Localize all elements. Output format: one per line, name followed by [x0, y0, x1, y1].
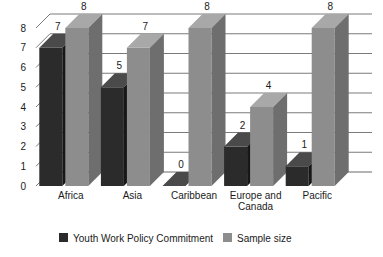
bar-value-label: 5	[117, 60, 123, 71]
bar-front-face	[189, 28, 212, 186]
bar-side-face	[335, 14, 349, 186]
y-axis-tick-label: 4	[20, 102, 26, 113]
bar-side-face	[150, 34, 164, 186]
axis-depth-connector	[36, 14, 50, 28]
y-axis-tick-label: 2	[20, 141, 26, 152]
bar-side-face	[88, 14, 102, 186]
category-label: Pacific	[302, 190, 331, 201]
bar-value-label: 8	[204, 1, 210, 12]
legend-swatch	[59, 233, 68, 242]
legend-label: Youth Work Policy Commitment	[73, 233, 213, 244]
bar-side-face	[212, 14, 226, 186]
bar-front-face	[312, 28, 335, 186]
y-axis-tick-label: 6	[20, 62, 26, 73]
bar-sample	[65, 14, 102, 186]
bar-value-label: 1	[301, 139, 307, 150]
category-label: Caribbean	[171, 190, 217, 201]
y-axis-tick-label: 1	[20, 161, 26, 172]
category-label: Asia	[123, 190, 143, 201]
bars: 7857082418	[39, 1, 348, 186]
bar-sample	[312, 14, 349, 186]
legend: Youth Work Policy CommitmentSample size	[59, 233, 292, 244]
chart-container: 0123456787857082418AfricaAsiaCaribbeanEu…	[0, 0, 383, 257]
bar-front-face	[250, 107, 273, 186]
bar-value-label: 8	[81, 1, 87, 12]
bar-value-label: 7	[143, 21, 149, 32]
y-axis: 012345678	[20, 23, 26, 192]
legend-swatch	[223, 233, 232, 242]
bar-value-label: 8	[327, 1, 333, 12]
bar-value-label: 2	[240, 120, 246, 131]
bar-sample	[127, 34, 164, 186]
bar-chart: 0123456787857082418AfricaAsiaCaribbeanEu…	[0, 0, 383, 257]
category-label: Africa	[58, 190, 84, 201]
bar-front-face	[127, 48, 150, 186]
category-label-line2: Canada	[238, 201, 273, 212]
y-axis-tick-label: 7	[20, 42, 26, 53]
bar-front-face	[65, 28, 88, 186]
y-axis-tick-label: 3	[20, 121, 26, 132]
y-axis-tick-label: 0	[20, 181, 26, 192]
bar-sample	[189, 14, 226, 186]
bar-side-face	[273, 93, 287, 186]
bar-front-face	[286, 166, 309, 186]
bar-front-face	[39, 48, 62, 186]
x-axis-category-labels: AfricaAsiaCaribbeanEurope andCanadaPacif…	[58, 190, 332, 212]
legend-label: Sample size	[237, 233, 292, 244]
bar-sample	[250, 93, 287, 186]
bar-front-face	[224, 147, 247, 187]
category-label: Europe and	[230, 190, 282, 201]
bar-value-label: 4	[266, 80, 272, 91]
y-axis-tick-label: 8	[20, 23, 26, 34]
bar-value-label: 0	[178, 159, 184, 170]
y-axis-tick-label: 5	[20, 82, 26, 93]
bar-front-face	[101, 87, 124, 186]
bar-value-label: 7	[55, 21, 61, 32]
